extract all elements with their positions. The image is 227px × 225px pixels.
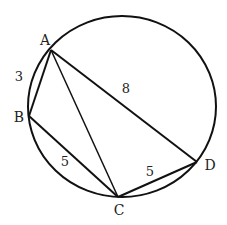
vertex-label-b: B [14, 109, 24, 125]
length-label-ad: 8 [122, 81, 130, 96]
length-label-ab: 3 [15, 69, 23, 84]
length-label-cd: 5 [146, 164, 154, 179]
vertex-label-d: D [204, 157, 215, 173]
length-label-bc: 5 [61, 154, 69, 169]
segment-ad [51, 50, 197, 162]
cyclic-quadrilateral-diagram: A B C D 3 8 5 5 [0, 0, 227, 225]
vertex-label-a: A [39, 32, 51, 48]
circumscribed-circle [28, 16, 216, 197]
vertex-label-c: C [114, 202, 125, 218]
segment-cd [118, 162, 197, 197]
segment-ab [29, 50, 51, 116]
